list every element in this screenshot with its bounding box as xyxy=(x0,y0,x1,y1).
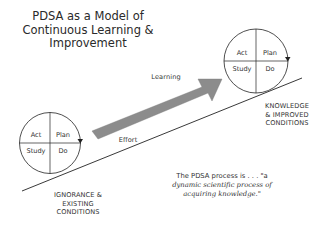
end-quadrant-do: Do xyxy=(256,65,284,73)
end-quadrant-study: Study xyxy=(228,65,256,73)
start-quadrant-study: Study xyxy=(22,147,50,155)
title-line-3: Improvement xyxy=(18,37,158,51)
start-cycle-circle xyxy=(20,113,84,174)
end-condition-label: KNOWLEDGE & IMPROVED CONDITIONS xyxy=(256,102,318,128)
start-quadrant-plan: Plan xyxy=(49,131,77,139)
quote-line-2: dynamic scientific process of xyxy=(162,181,282,190)
quote-line-3: acquiring knowledge." xyxy=(162,190,282,199)
title-line-2: Continuous Learning & xyxy=(18,24,158,38)
end-quadrant-plan: Plan xyxy=(256,49,284,57)
start-condition-label: IGNORANCE & EXISTING CONDITIONS xyxy=(48,191,108,217)
learning-arrow xyxy=(92,79,222,139)
end-cycle-circle xyxy=(224,29,291,93)
diagram-title: PDSA as a Model of Continuous Learning &… xyxy=(18,10,158,51)
end-quadrant-act: Act xyxy=(228,49,256,57)
learning-label: Learning xyxy=(146,73,186,82)
pdsa-quote: The PDSA process is . . . "a dynamic sci… xyxy=(162,172,282,199)
start-quadrant-do: Do xyxy=(49,147,77,155)
effort-label: Effort xyxy=(112,136,144,145)
quote-line-1: The PDSA process is . . . "a xyxy=(162,172,282,181)
start-quadrant-act: Act xyxy=(22,131,50,139)
title-line-1: PDSA as a Model of xyxy=(18,10,158,24)
